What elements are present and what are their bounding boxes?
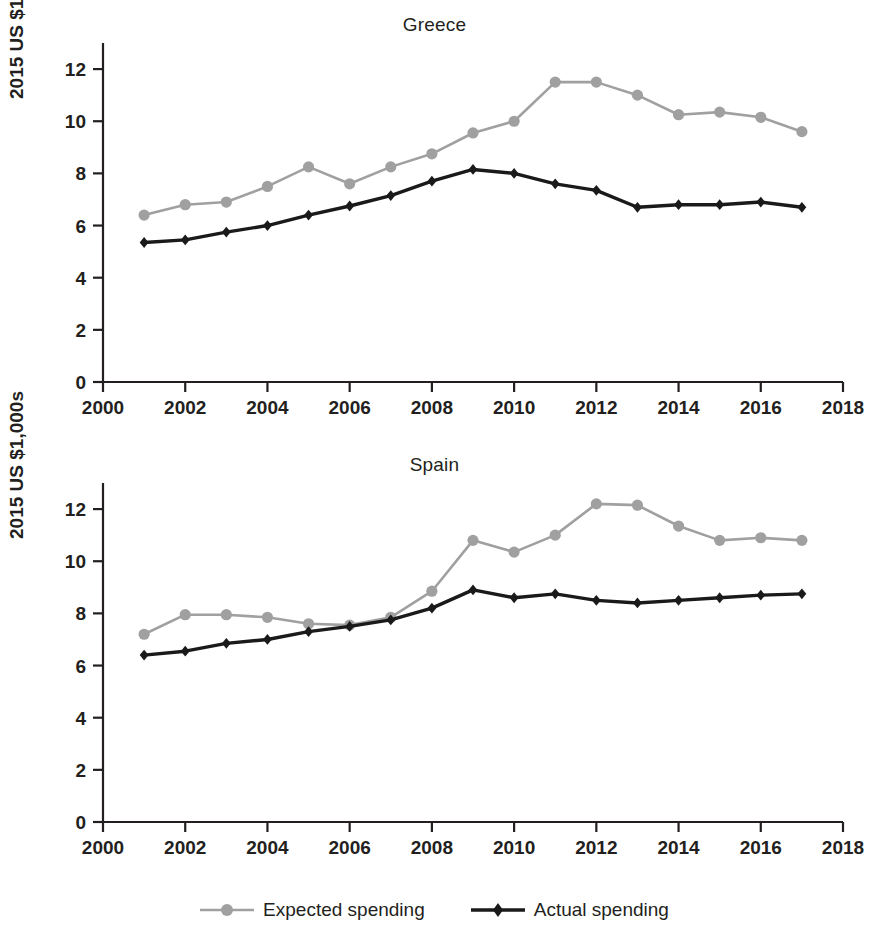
x-tick-label: 2004 xyxy=(246,397,289,418)
x-tick-label: 2014 xyxy=(657,397,700,418)
x-tick-label: 2018 xyxy=(822,837,864,858)
data-series-spain xyxy=(139,498,808,660)
y-tick-labels-greece: 024681012 xyxy=(65,59,87,393)
x-tick-label: 2018 xyxy=(822,397,864,418)
legend-label-expected: Expected spending xyxy=(263,899,425,921)
y-tick-label: 0 xyxy=(75,812,86,833)
axes-greece xyxy=(93,43,843,392)
x-tick-labels-greece: 2000200220042006200820102012201420162018 xyxy=(82,397,864,418)
legend-marker-diamond-icon xyxy=(471,901,525,919)
x-tick-label: 2006 xyxy=(329,397,371,418)
x-tick-label: 2014 xyxy=(657,837,700,858)
x-tick-label: 2004 xyxy=(246,837,289,858)
y-tick-label: 8 xyxy=(75,603,86,624)
legend-item-expected[interactable]: Expected spending xyxy=(200,899,425,921)
x-tick-label: 2006 xyxy=(329,837,371,858)
x-tick-label: 2008 xyxy=(411,837,453,858)
y-tick-label: 4 xyxy=(75,268,86,289)
x-tick-label: 2012 xyxy=(575,837,617,858)
x-tick-label: 2010 xyxy=(493,837,535,858)
y-tick-label: 0 xyxy=(75,372,86,393)
x-tick-label: 2000 xyxy=(82,837,124,858)
plot-area-greece: 024681012 200020022004200620082010201220… xyxy=(0,0,869,455)
y-tick-label: 2 xyxy=(75,760,86,781)
y-tick-label: 12 xyxy=(65,59,86,80)
y-tick-label: 6 xyxy=(75,656,86,677)
chart-panel-greece: Greece 2015 US $1,000s 024681012 2000200… xyxy=(0,0,869,455)
y-tick-label: 2 xyxy=(75,320,86,341)
x-tick-labels-spain: 2000200220042006200820102012201420162018 xyxy=(82,837,864,858)
data-series-greece xyxy=(139,77,808,248)
x-tick-label: 2012 xyxy=(575,397,617,418)
series-expected-spending xyxy=(139,77,808,221)
x-tick-label: 2008 xyxy=(411,397,453,418)
y-tick-label: 12 xyxy=(65,499,86,520)
y-tick-label: 8 xyxy=(75,163,86,184)
x-tick-label: 2002 xyxy=(164,397,206,418)
series-expected-spending xyxy=(139,498,808,640)
figure-root: Greece 2015 US $1,000s 024681012 2000200… xyxy=(0,0,869,938)
x-tick-label: 2000 xyxy=(82,397,124,418)
chart-panel-spain: Spain 2015 US $1,000s 024681012 20002002… xyxy=(0,440,869,895)
x-tick-label: 2016 xyxy=(740,837,782,858)
legend-marker-circle-icon xyxy=(200,901,254,919)
legend: Expected spending Actual spending xyxy=(0,890,869,930)
x-tick-label: 2010 xyxy=(493,397,535,418)
y-tick-label: 6 xyxy=(75,216,86,237)
axes-spain xyxy=(93,483,843,832)
y-tick-labels-spain: 024681012 xyxy=(65,499,87,833)
series-actual-spending xyxy=(140,164,807,248)
legend-label-actual: Actual spending xyxy=(534,899,669,921)
plot-area-spain: 024681012 200020022004200620082010201220… xyxy=(0,440,869,895)
x-tick-label: 2002 xyxy=(164,837,206,858)
y-tick-label: 10 xyxy=(65,111,86,132)
y-tick-label: 10 xyxy=(65,551,86,572)
legend-item-actual[interactable]: Actual spending xyxy=(471,899,669,921)
y-tick-label: 4 xyxy=(75,708,86,729)
x-tick-label: 2016 xyxy=(740,397,782,418)
series-actual-spending xyxy=(140,585,807,661)
